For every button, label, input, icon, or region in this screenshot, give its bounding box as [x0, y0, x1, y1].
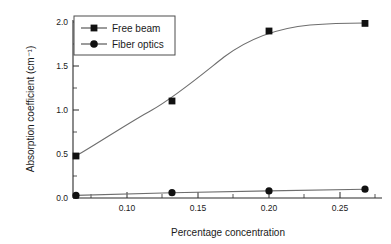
fiber-optics-data-point	[168, 189, 175, 196]
y-axis-title: Absorption coefficient (cm⁻¹)	[25, 46, 36, 173]
legend-square-marker-icon	[91, 25, 98, 32]
free-beam-data-point	[266, 28, 273, 35]
y-tick-label: 1.5	[56, 61, 68, 71]
free-beam-data-point	[73, 153, 80, 160]
x-tick-label: 0.10	[119, 203, 136, 213]
fiber-optics-data-point	[72, 192, 79, 199]
y-tick-label: 1.0	[56, 105, 68, 115]
free-beam-data-point	[362, 20, 369, 27]
y-tick-label: 0.0	[56, 193, 68, 203]
y-tick-label: 2.0	[56, 17, 68, 27]
fiber-optics-data-point	[361, 186, 368, 193]
fiber-optics-data-point	[265, 187, 272, 194]
x-tick-label: 0.15	[190, 203, 207, 213]
free-beam-data-point	[169, 98, 176, 105]
x-axis-title: Percentage concentration	[171, 227, 285, 238]
legend-circle-marker-icon	[90, 40, 98, 48]
legend-label-free-beam: Free beam	[112, 23, 160, 34]
x-tick-label: 0.20	[261, 203, 278, 213]
x-tick-label: 0.25	[332, 203, 349, 213]
y-tick-label: 0.5	[56, 149, 68, 159]
chart-figure: 2.0 1.5 1.0 0.5 0.0 0.10 0.15 0.20 0.25	[0, 0, 391, 244]
absorption-coefficient-plot: 2.0 1.5 1.0 0.5 0.0 0.10 0.15 0.20 0.25	[0, 0, 391, 244]
legend-label-fiber-optics: Fiber optics	[112, 39, 164, 50]
chart-legend[interactable]: Free beam Fiber optics	[74, 16, 175, 55]
